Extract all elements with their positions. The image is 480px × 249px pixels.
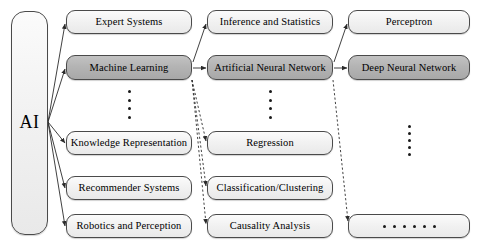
node-label: Perceptron [386,16,432,28]
dot [408,146,411,149]
dot [128,116,131,119]
node-perceptron[interactable]: Perceptron [348,10,470,34]
dot [269,90,272,93]
dot [403,225,406,228]
node-label: Causality Analysis [230,220,310,232]
node-label: Knowledge Representation [71,137,187,149]
node-inference-and-statistics[interactable]: Inference and Statistics [207,10,333,34]
node-robotics-and-perception[interactable]: Robotics and Perception [66,214,192,238]
dot [269,99,272,102]
dot [423,225,426,228]
dot [408,139,411,142]
dot [408,125,411,128]
dot [408,132,411,135]
node-regression[interactable]: Regression [207,131,333,155]
node-label: Deep Neural Network [362,62,457,74]
dot [128,99,131,102]
vertical-ellipsis-column2 [268,90,273,119]
horizontal-ellipsis [383,225,436,228]
node-recommender-systems[interactable]: Recommender Systems [66,176,192,200]
node-machine-learning[interactable]: Machine Learning [66,55,192,80]
node-classification-clustering[interactable]: Classification/Clustering [207,176,333,200]
vertical-ellipsis-column1 [127,90,132,119]
vertical-ellipsis-column3 [407,125,412,156]
dot [383,225,386,228]
dot [269,107,272,110]
dot [128,90,131,93]
node-ai-root[interactable]: AI [11,11,48,235]
node-label: Classification/Clustering [217,182,324,194]
node-deep-neural-network[interactable]: Deep Neural Network [348,55,470,80]
dot [433,225,436,228]
node-knowledge-representation[interactable]: Knowledge Representation [66,131,192,155]
node-label: AI [20,113,40,133]
node-label: Recommender Systems [79,182,180,194]
node-label: Regression [246,137,294,149]
node-label: Machine Learning [90,62,169,74]
diagram-canvas: AI Expert Systems Machine Learning Knowl… [0,0,480,249]
edges-ann-to-column3-dashed [333,80,348,221]
dot [413,225,416,228]
edges-ann-to-column3-solid [334,24,347,68]
node-column3-ellipsis-box[interactable] [348,214,470,238]
node-artificial-neural-network[interactable]: Artificial Neural Network [207,55,333,80]
edges-root-to-column1 [48,24,65,226]
node-label: Inference and Statistics [220,16,320,28]
node-label: Expert Systems [95,16,162,28]
node-label: Robotics and Perception [77,220,182,232]
dot [393,225,396,228]
dot [408,153,411,156]
node-label: Artificial Neural Network [214,62,326,74]
edges-ml-to-column2-dashed [192,80,206,224]
edges-ml-to-column2-solid [193,24,206,68]
dot [269,116,272,119]
node-expert-systems[interactable]: Expert Systems [66,10,192,34]
dot [128,107,131,110]
node-causality-analysis[interactable]: Causality Analysis [207,214,333,238]
